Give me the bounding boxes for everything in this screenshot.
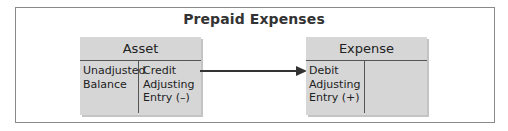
t-account-header: Expense [306, 37, 427, 61]
arrow-icon [200, 65, 308, 77]
t-account-body: Unadjusted Balance Credit Adjusting Entr… [80, 61, 201, 115]
t-account-expense: Expense Debit Adjusting Entry (+) [306, 37, 427, 115]
debit-side-text: Debit Adjusting Entry (+) [309, 64, 363, 105]
credit-side-text: Credit Adjusting Entry (–) [143, 64, 199, 105]
t-account-asset: Asset Unadjusted Balance Credit Adjustin… [80, 37, 201, 115]
t-account-header: Asset [80, 37, 201, 61]
t-account-body: Debit Adjusting Entry (+) [306, 61, 427, 115]
diagram-title: Prepaid Expenses [0, 11, 508, 27]
debit-side-text: Unadjusted Balance [83, 64, 137, 91]
